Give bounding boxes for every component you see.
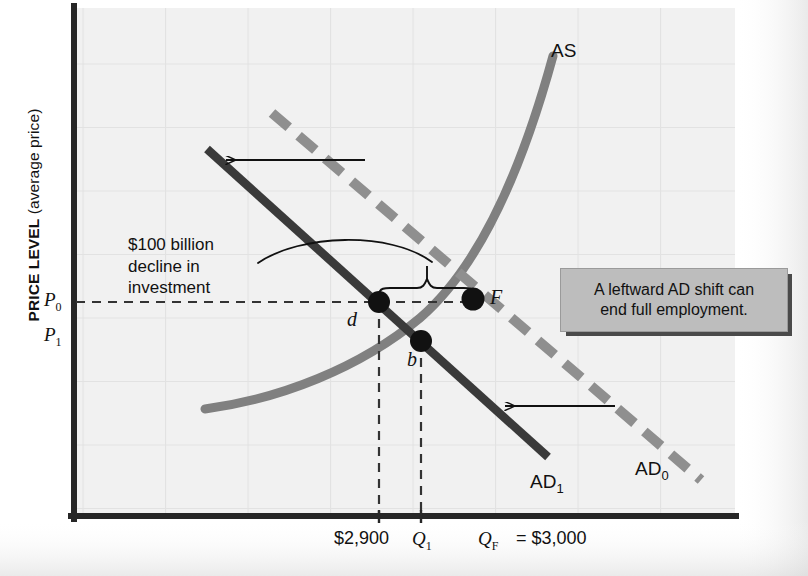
x-tick-label-3000: = $3,000 bbox=[516, 528, 587, 549]
y-axis-title: PRICE LEVEL (average price) bbox=[25, 75, 43, 355]
price-label-p1: P1 bbox=[44, 324, 62, 350]
price-label-p1-sub: 1 bbox=[56, 335, 62, 349]
ad-as-diagram: PRICE LEVEL (average price) P0 P1 $2,900… bbox=[0, 0, 808, 576]
x-tick-label-qf: QF bbox=[478, 528, 498, 554]
y-axis-title-sub: (average price) bbox=[25, 109, 42, 219]
ad0-curve-label: AD0 bbox=[635, 458, 669, 483]
point-d-label: d bbox=[347, 308, 357, 331]
as-curve-label: AS bbox=[551, 40, 576, 62]
callout-box: A leftward AD shift can end full employm… bbox=[560, 268, 788, 332]
point-d-marker bbox=[368, 291, 390, 313]
x-tick-label-2900: $2,900 bbox=[334, 528, 389, 549]
price-label-p0: P0 bbox=[44, 289, 62, 315]
price-label-p0-sub: 0 bbox=[56, 300, 62, 314]
x-tick-label-q1: Q1 bbox=[412, 528, 432, 554]
price-label-p1-letter: P bbox=[44, 324, 56, 345]
ad1-curve-label: AD1 bbox=[530, 471, 564, 496]
point-b-label: b bbox=[407, 348, 417, 371]
investment-decline-annotation: $100 billion decline in investment bbox=[128, 234, 214, 299]
price-label-p0-letter: P bbox=[44, 289, 56, 310]
point-f-label: F bbox=[490, 286, 502, 309]
point-F-marker bbox=[462, 288, 485, 311]
y-axis-title-main: PRICE LEVEL bbox=[25, 219, 42, 322]
x-axis-caption: $2,900 Q1 QF = $3,000 bbox=[0, 528, 808, 576]
